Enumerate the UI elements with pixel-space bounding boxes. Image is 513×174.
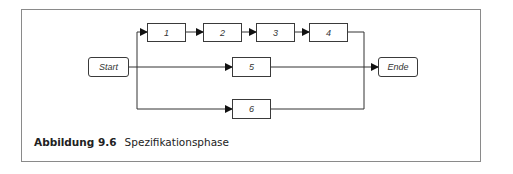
start-node: Start	[88, 57, 129, 77]
node-2: 2	[203, 23, 242, 42]
node-6-label: 6	[249, 104, 254, 114]
end-node: Ende	[378, 57, 418, 77]
figure-caption: Abbildung 9.6Spezifikationsphase	[34, 136, 229, 148]
node-6: 6	[232, 99, 271, 119]
start-label: Start	[99, 62, 118, 72]
node-4: 4	[309, 23, 348, 42]
node-5: 5	[232, 57, 271, 77]
node-3: 3	[256, 23, 295, 42]
node-1: 1	[147, 23, 186, 42]
node-4-label: 4	[326, 28, 331, 38]
caption-number: Abbildung 9.6	[34, 136, 117, 148]
end-label: Ende	[387, 62, 408, 72]
node-1-label: 1	[164, 28, 169, 38]
caption-text: Spezifikationsphase	[125, 136, 229, 148]
node-5-label: 5	[249, 62, 254, 72]
node-3-label: 3	[273, 28, 278, 38]
node-2-label: 2	[220, 28, 225, 38]
